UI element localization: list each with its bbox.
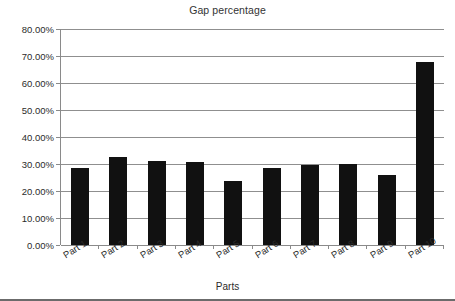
- bar[interactable]: [71, 168, 89, 245]
- x-axis-tick-mark: [137, 245, 138, 249]
- bar[interactable]: [224, 181, 242, 245]
- y-axis-tick-label: 20.00%: [0, 186, 54, 197]
- bar[interactable]: [186, 162, 204, 245]
- x-axis-tick-mark: [252, 245, 253, 249]
- x-axis-tick-mark: [328, 245, 329, 249]
- x-axis-title: Parts: [0, 281, 455, 292]
- x-axis-tick-mark: [213, 245, 214, 249]
- chart-container: Gap percentage 0.00%10.00%20.00%30.00%40…: [0, 0, 455, 301]
- x-axis-tick-mark: [290, 245, 291, 249]
- bar[interactable]: [148, 161, 166, 245]
- bar[interactable]: [301, 165, 319, 245]
- bar[interactable]: [109, 157, 127, 245]
- bar[interactable]: [263, 168, 281, 245]
- plot-area: [60, 29, 444, 245]
- bar[interactable]: [416, 62, 434, 245]
- y-axis-tick-label: 30.00%: [0, 159, 54, 170]
- y-axis-tick-label: 60.00%: [0, 78, 54, 89]
- y-axis-tick-label: 40.00%: [0, 132, 54, 143]
- gridline: [61, 56, 444, 57]
- y-axis-tick-label: 50.00%: [0, 105, 54, 116]
- y-axis-tick-mark: [56, 245, 60, 246]
- y-axis-tick-label: 10.00%: [0, 213, 54, 224]
- y-axis-tick-label: 0.00%: [0, 240, 54, 251]
- y-axis-tick-label: 80.00%: [0, 24, 54, 35]
- x-axis-tick-mark: [98, 245, 99, 249]
- y-axis-tick-label: 70.00%: [0, 51, 54, 62]
- gridline: [61, 137, 444, 138]
- chart-title: Gap percentage: [0, 4, 455, 16]
- gridline: [61, 29, 444, 30]
- x-axis-tick-mark: [405, 245, 406, 249]
- x-axis-tick-mark: [366, 245, 367, 249]
- gridline: [61, 83, 444, 84]
- x-axis-tick-mark: [175, 245, 176, 249]
- x-axis-tick-mark: [443, 245, 444, 249]
- bar[interactable]: [378, 175, 396, 245]
- bar[interactable]: [339, 164, 357, 245]
- gridline: [61, 110, 444, 111]
